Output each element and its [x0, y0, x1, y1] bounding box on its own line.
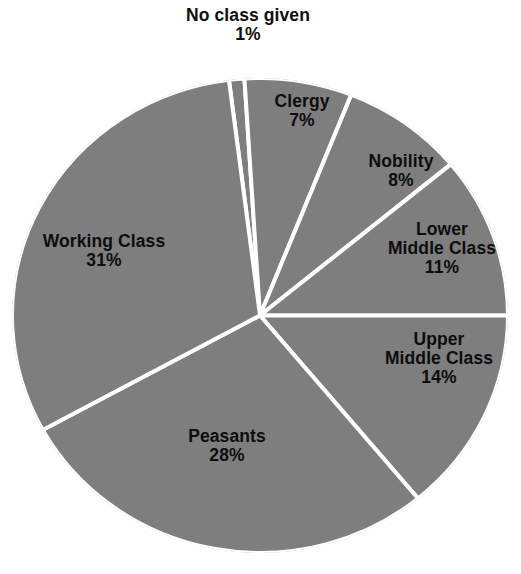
slice-label-upper-middle-class: Upper Middle Class 14%: [368, 330, 510, 387]
slice-label-value: 31%: [18, 251, 190, 270]
slice-label-value: 11%: [372, 258, 512, 277]
slice-label-no-class-given: No class given 1%: [148, 6, 348, 44]
slice-label-value: 28%: [152, 446, 302, 465]
slice-label-working-class: Working Class 31%: [18, 232, 190, 270]
slice-label-value: 8%: [338, 171, 464, 190]
slice-label-value: 1%: [148, 25, 348, 44]
slice-label-nobility: Nobility 8%: [338, 152, 464, 190]
slice-label-name-line2: Middle Class: [372, 239, 512, 258]
slice-label-name: Working Class: [18, 232, 190, 251]
slice-label-name: Clergy: [246, 92, 358, 111]
pie-chart-graphic: [0, 0, 521, 574]
slice-label-name: No class given: [148, 6, 348, 25]
pie-chart: No class given 1% Clergy 7% Nobility 8% …: [0, 0, 521, 574]
pie-slices: [12, 78, 508, 553]
slice-label-name: Nobility: [338, 152, 464, 171]
slice-label-value: 14%: [368, 368, 510, 387]
slice-label-clergy: Clergy 7%: [246, 92, 358, 130]
slice-label-name-line2: Middle Class: [368, 349, 510, 368]
slice-label-lower-middle-class: Lower Middle Class 11%: [372, 220, 512, 277]
slice-label-peasants: Peasants 28%: [152, 427, 302, 465]
slice-label-name: Peasants: [152, 427, 302, 446]
slice-label-name-line1: Upper: [368, 330, 510, 349]
slice-label-name-line1: Lower: [372, 220, 512, 239]
slice-label-value: 7%: [246, 111, 358, 130]
